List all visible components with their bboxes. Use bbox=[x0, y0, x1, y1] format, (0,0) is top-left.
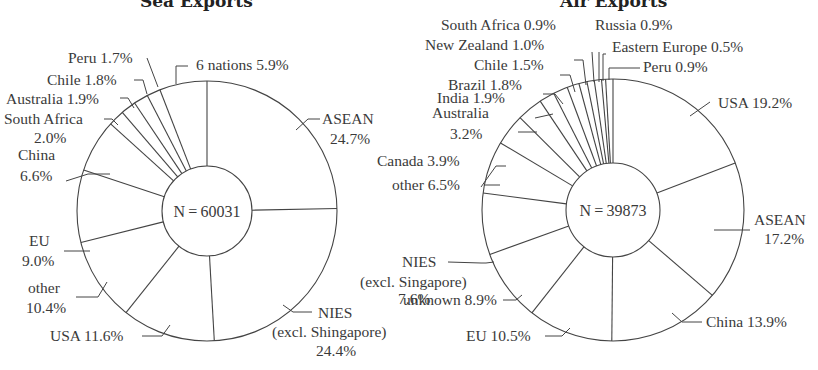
air-label-eu: EU 10.5% bbox=[466, 327, 531, 344]
air-label-china: China 13.9% bbox=[706, 313, 787, 330]
air-label-nies-sub: (excl. Singapore) bbox=[360, 273, 467, 291]
air-label-eastern-europe: Eastern Europe 0.5% bbox=[612, 38, 743, 55]
slice-boundary bbox=[210, 256, 215, 341]
slice-boundary bbox=[126, 246, 179, 313]
sea-label-eu: EU bbox=[29, 232, 50, 249]
air-label-chile: Chile 1.5% bbox=[474, 56, 544, 73]
air-label-asean-pct: 17.2% bbox=[764, 230, 804, 247]
air-label-other: other 6.5% bbox=[392, 176, 460, 193]
slice-boundary bbox=[135, 103, 182, 174]
air-label-peru: Peru 0.9% bbox=[643, 58, 708, 75]
slice-boundary bbox=[612, 257, 613, 341]
air-label-asean: ASEAN bbox=[754, 211, 806, 228]
sea-label-south-africa: South Africa bbox=[4, 110, 83, 127]
slice-boundary bbox=[657, 163, 735, 193]
air-n-label: N = 39873 bbox=[580, 202, 647, 219]
air-label-brazil: Brazil 1.8% bbox=[448, 76, 522, 93]
sea-label-nies-sub: (excl. Shingapore) bbox=[272, 323, 387, 341]
sea-label-china-pct: 6.6% bbox=[20, 167, 52, 184]
air-label-south-africa: South Africa 0.9% bbox=[441, 16, 556, 33]
slice-boundary bbox=[532, 247, 584, 313]
air-label-nies: NIES bbox=[402, 253, 436, 270]
slice-boundary bbox=[649, 241, 713, 296]
charts-canvas: N = 60031 ASEAN 24.7% NIES (excl. Shinga… bbox=[0, 0, 818, 370]
air-label-canada: Canada 3.9% bbox=[377, 152, 460, 169]
sea-label-chile: Chile 1.8% bbox=[47, 71, 117, 88]
sea-label-eu-pct: 9.0% bbox=[22, 252, 54, 269]
air-label-australia: Australia bbox=[432, 104, 489, 121]
slice-boundary bbox=[483, 193, 566, 204]
sea-label-australia: Australia 1.9% bbox=[6, 90, 99, 107]
sea-label-nies: NIES bbox=[318, 304, 352, 321]
sea-label-south-africa-pct: 2.0% bbox=[34, 129, 66, 146]
slice-boundary bbox=[111, 124, 174, 181]
air-label-new-zealand: New Zealand 1.0% bbox=[425, 36, 544, 53]
slice-boundary bbox=[501, 143, 573, 186]
air-label-russia: Russia 0.9% bbox=[595, 16, 673, 33]
sea-label-nies-pct: 24.4% bbox=[316, 342, 356, 359]
slice-boundary bbox=[81, 222, 163, 243]
sea-label-peru: Peru 1.7% bbox=[68, 49, 133, 66]
slice-boundary bbox=[567, 87, 596, 166]
sea-n-label: N = 60031 bbox=[174, 203, 241, 220]
sea-label-asean-pct: 24.7% bbox=[330, 130, 370, 147]
slice-boundary bbox=[252, 209, 337, 211]
sea-label-usa: USA 11.6% bbox=[50, 327, 124, 344]
slice-boundary bbox=[594, 80, 606, 163]
sea-label-china: China bbox=[18, 146, 55, 163]
sea-label-other: other bbox=[28, 279, 61, 296]
sea-label-asean: ASEAN bbox=[322, 110, 374, 127]
sea-label-other-pct: 10.4% bbox=[26, 299, 66, 316]
air-label-usa: USA 19.2% bbox=[718, 94, 792, 111]
air-label-australia-pct: 3.2% bbox=[450, 125, 482, 142]
sea-label-6-nations: 6 nations 5.9% bbox=[196, 56, 289, 73]
air-label-nies-pct-html: 7.6% bbox=[398, 290, 430, 308]
slice-boundary bbox=[490, 226, 569, 255]
slice-boundary bbox=[122, 112, 177, 176]
